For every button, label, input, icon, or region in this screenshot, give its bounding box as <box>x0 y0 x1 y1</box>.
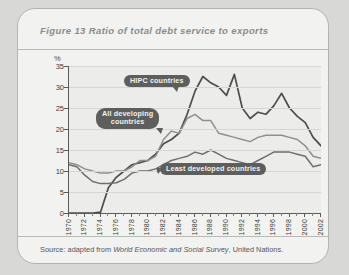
x-axis-tick-mark <box>100 213 101 217</box>
callout-all-developing-countries: All developing countries <box>96 108 159 129</box>
figure-card: Figure 13 Ratio of total debt service to… <box>17 8 329 264</box>
x-axis-tick-label: 1972 <box>80 219 87 235</box>
x-axis-tick-mark <box>312 213 313 216</box>
x-axis-tick-mark <box>202 213 203 216</box>
x-axis-tick-mark <box>131 213 132 217</box>
x-axis-tick-mark <box>241 213 242 217</box>
x-axis-tick-mark <box>273 213 274 217</box>
x-axis-tick-mark <box>226 213 227 217</box>
gridline <box>69 66 321 67</box>
x-axis-tick-mark <box>107 213 108 216</box>
callout-hipc-countries: HIPC countries <box>124 75 190 87</box>
x-axis-tick-mark <box>194 213 195 217</box>
x-axis-tick-label: 1988 <box>206 219 213 235</box>
x-axis-tick-mark <box>249 213 250 216</box>
x-axis-tick-mark <box>186 213 187 216</box>
gridline <box>69 192 321 193</box>
gridline <box>69 87 321 88</box>
y-axis-tick-mark <box>64 171 68 172</box>
x-axis-tick-label: 1992 <box>238 219 245 235</box>
x-axis-tick-mark <box>155 213 156 216</box>
x-axis-tick-mark <box>178 213 179 217</box>
y-axis-tick-label: 25 <box>56 104 64 113</box>
figure-title: Figure 13 Ratio of total debt service to… <box>40 25 310 36</box>
x-axis-tick-label: 1994 <box>254 219 261 235</box>
x-axis-tick-mark <box>115 213 116 217</box>
y-axis-labels: 05101520253035 <box>40 66 64 213</box>
x-axis-tick-label: 1980 <box>143 219 150 235</box>
plot-area <box>68 66 321 214</box>
x-axis-tick-label: 2000 <box>301 219 308 235</box>
x-axis-tick-mark <box>92 213 93 216</box>
y-axis-tick-label: 15 <box>56 146 64 155</box>
x-axis-tick-mark <box>218 213 219 216</box>
chart-container: % 05101520253035 19701972197419761978198… <box>40 54 330 229</box>
x-axis-tick-mark <box>233 213 234 216</box>
y-axis-tick-label: 30 <box>56 83 64 92</box>
x-axis-tick-label: 1978 <box>128 219 135 235</box>
x-axis-tick-mark <box>170 213 171 216</box>
x-axis-tick-mark <box>76 213 77 216</box>
source-suffix: , United Nations. <box>229 245 284 254</box>
x-axis-tick-label: 1998 <box>285 219 292 235</box>
source-prefix: Source: adapted from <box>40 245 113 254</box>
y-axis-tick-mark <box>64 150 68 151</box>
gridline <box>69 150 321 151</box>
y-axis-tick-mark <box>64 213 68 214</box>
x-axis-tick-mark <box>289 213 290 217</box>
title-divider <box>18 49 328 50</box>
source-publication: World Economic and Social Survey <box>113 245 228 254</box>
y-axis-tick-mark <box>64 192 68 193</box>
x-axis-tick-label: 1986 <box>191 219 198 235</box>
y-axis-tick-label: 10 <box>56 167 64 176</box>
x-axis-tick-mark <box>320 213 321 217</box>
y-axis-tick-mark <box>64 108 68 109</box>
source-note: Source: adapted from World Economic and … <box>40 245 283 254</box>
x-axis-tick-mark <box>84 213 85 217</box>
x-axis-tick-mark <box>281 213 282 216</box>
x-axis-tick-mark <box>265 213 266 216</box>
x-axis-tick-mark <box>139 213 140 216</box>
x-axis-tick-mark <box>257 213 258 217</box>
x-axis-tick-mark <box>147 213 148 217</box>
x-axis-tick-label: 2002 <box>317 219 324 235</box>
gridline <box>69 129 321 130</box>
x-axis-tick-mark <box>210 213 211 217</box>
callout-least-developed-countries: Least developed countries <box>160 163 266 175</box>
chart-lines <box>69 66 321 213</box>
y-axis-tick-label: 35 <box>56 62 64 71</box>
callout-least-developed-tail <box>156 168 163 174</box>
source-divider <box>18 236 328 237</box>
x-axis-tick-label: 1976 <box>112 219 119 235</box>
y-axis-tick-mark <box>64 87 68 88</box>
x-axis-tick-label: 1982 <box>159 219 166 235</box>
y-axis-tick-mark <box>64 129 68 130</box>
y-axis-tick-label: 20 <box>56 125 64 134</box>
x-axis-tick-label: 1974 <box>96 219 103 235</box>
x-axis-tick-mark <box>304 213 305 217</box>
callout-hipc-tail <box>172 86 179 92</box>
x-axis-tick-mark <box>163 213 164 217</box>
x-axis-tick-mark <box>296 213 297 216</box>
x-axis-tick-label: 1970 <box>65 219 72 235</box>
y-axis-tick-mark <box>64 66 68 67</box>
callout-all-developing-tail <box>156 128 163 134</box>
x-axis-tick-label: 1996 <box>269 219 276 235</box>
x-axis-tick-mark <box>68 213 69 217</box>
x-axis-tick-mark <box>123 213 124 216</box>
x-axis-tick-label: 1984 <box>175 219 182 235</box>
x-axis-tick-label: 1990 <box>222 219 229 235</box>
